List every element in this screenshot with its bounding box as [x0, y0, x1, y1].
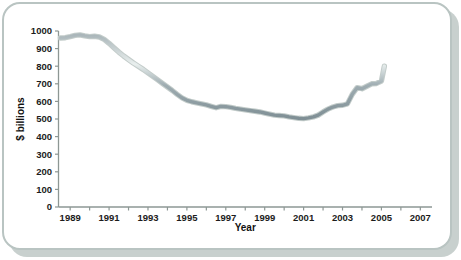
y-tick-label: 700 [36, 78, 52, 89]
series-line [60, 35, 384, 119]
figure-root: 01002003004005006007008009001000 1989199… [0, 0, 461, 260]
y-axis-title: $ billions [15, 97, 26, 141]
y-tick-label: 100 [36, 184, 52, 195]
y-tick-label: 300 [36, 149, 52, 160]
axes-group [59, 31, 433, 207]
x-tick-label: 2003 [332, 212, 353, 223]
x-tick-label: 1999 [254, 212, 275, 223]
y-tick-label: 600 [36, 96, 52, 107]
x-tick-label: 2001 [293, 212, 315, 223]
x-axis-title: Year [235, 222, 256, 233]
line-chart: 01002003004005006007008009001000 1989199… [0, 0, 461, 260]
x-tick-label: 2007 [410, 212, 431, 223]
y-tick-label: 400 [36, 131, 52, 142]
y-tick-label: 900 [36, 43, 52, 54]
y-axis-tick-labels: 01002003004005006007008009001000 [31, 25, 52, 212]
y-tick-label: 200 [36, 166, 52, 177]
x-tick-label: 1991 [99, 212, 121, 223]
x-tick-label: 1995 [176, 212, 198, 223]
x-tick-label: 1989 [60, 212, 81, 223]
y-tick-label: 500 [36, 113, 52, 124]
y-tick-label: 0 [47, 201, 52, 212]
x-tick-label: 2005 [371, 212, 393, 223]
y-tick-label: 1000 [31, 25, 52, 36]
x-tick-label: 1997 [215, 212, 236, 223]
y-tick-label: 800 [36, 61, 52, 72]
x-tick-label: 1993 [137, 212, 158, 223]
